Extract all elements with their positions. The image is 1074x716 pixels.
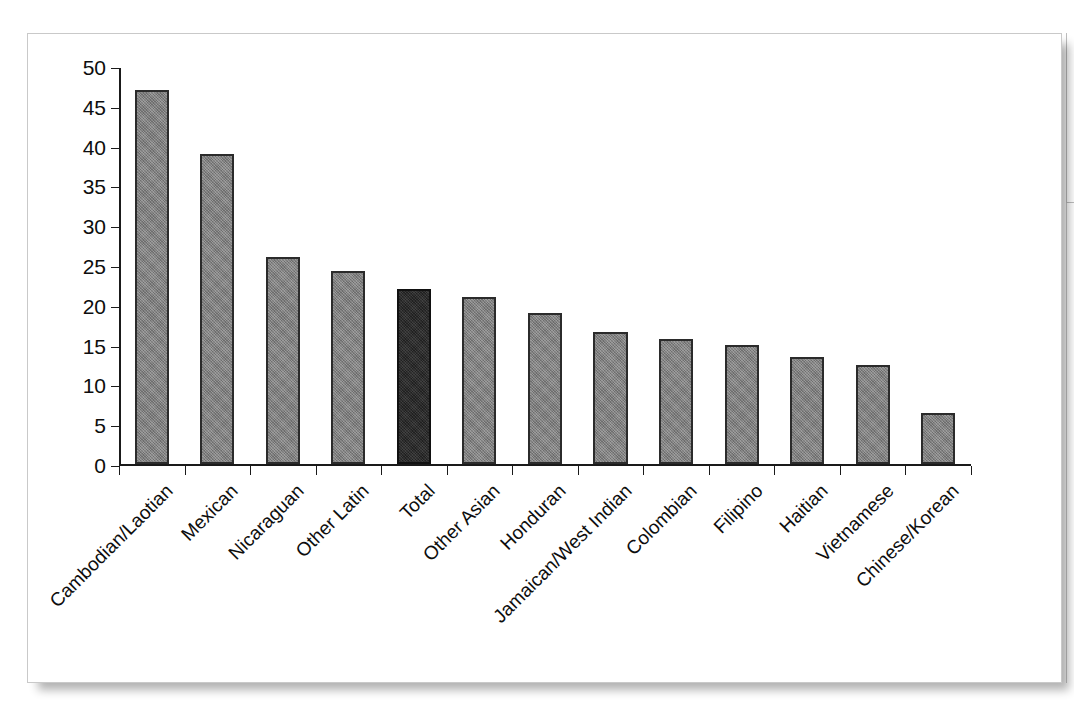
y-axis-tick — [111, 108, 119, 109]
y-axis-tick — [111, 307, 119, 308]
bar — [528, 313, 562, 464]
y-axis-tick-label: 35 — [83, 175, 106, 199]
x-axis-tick — [971, 466, 972, 475]
y-axis-tick — [111, 267, 119, 268]
x-axis-tick — [381, 466, 382, 475]
y-axis-line — [119, 68, 121, 466]
bar — [135, 90, 169, 464]
x-axis-tick-label: Mexican — [177, 480, 243, 546]
bar — [200, 154, 234, 464]
y-axis-tick-label: 10 — [83, 374, 106, 398]
screenshot-root: 05101520253035404550 Cambodian/LaotianMe… — [0, 0, 1074, 716]
bar — [725, 345, 759, 464]
bar — [921, 413, 955, 464]
x-axis-tick — [578, 466, 579, 475]
y-axis-tick-label: 30 — [83, 215, 106, 239]
x-axis-tick — [643, 466, 644, 475]
y-axis-tick-label: 50 — [83, 56, 106, 80]
y-axis-tick-label: 5 — [94, 414, 106, 438]
x-axis-tick — [447, 466, 448, 475]
x-axis-tick — [512, 466, 513, 475]
y-axis-tick — [111, 148, 119, 149]
bar — [790, 357, 824, 464]
y-axis-tick — [111, 466, 119, 467]
bar — [462, 297, 496, 464]
x-axis-line — [119, 464, 971, 466]
adjacent-page-sliver-top — [1066, 33, 1074, 203]
y-axis-tick-label: 45 — [83, 96, 106, 120]
bar — [659, 339, 693, 464]
x-axis-tick — [119, 466, 120, 475]
x-axis-tick — [905, 466, 906, 475]
y-axis-tick — [111, 68, 119, 69]
bar — [397, 289, 431, 464]
chart-panel: 05101520253035404550 Cambodian/LaotianMe… — [27, 33, 1062, 683]
x-axis-tick-label: Haitian — [775, 480, 832, 537]
x-axis-tick — [709, 466, 710, 475]
plot-area: 05101520253035404550 Cambodian/LaotianMe… — [119, 68, 971, 466]
y-axis-tick — [111, 386, 119, 387]
x-axis-tick-label: Filipino — [709, 480, 767, 538]
x-axis-tick — [250, 466, 251, 475]
bar — [266, 257, 300, 464]
y-axis-tick — [111, 426, 119, 427]
y-axis-tick-label: 15 — [83, 335, 106, 359]
x-axis-tick-label: Total — [396, 480, 440, 524]
bar — [331, 271, 365, 464]
y-axis-tick-label: 25 — [83, 255, 106, 279]
x-axis-tick — [185, 466, 186, 475]
x-axis-tick — [840, 466, 841, 475]
y-axis-tick — [111, 347, 119, 348]
bar — [593, 332, 627, 464]
x-axis-tick — [774, 466, 775, 475]
x-axis-tick-label: Cambodian/Laotian — [45, 480, 177, 612]
y-axis-tick — [111, 227, 119, 228]
y-axis-tick-label: 40 — [83, 136, 106, 160]
y-axis-tick — [111, 187, 119, 188]
x-axis-tick — [316, 466, 317, 475]
bar — [856, 365, 890, 465]
y-axis-tick-label: 0 — [94, 454, 106, 478]
y-axis-tick-label: 20 — [83, 295, 106, 319]
